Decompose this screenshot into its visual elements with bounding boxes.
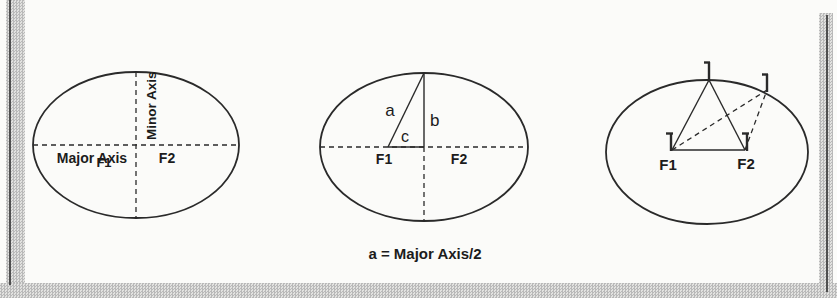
panel-ellipse-abc: a b c F1 F2	[320, 73, 528, 221]
side-c-label: c	[401, 128, 409, 145]
minor-axis-label: Minor Axis	[144, 71, 159, 140]
ellipse-diagrams: Minor Axis Major Axis F1 F2 a b c F1 F2	[0, 0, 837, 298]
focus2-label: F2	[737, 155, 755, 172]
ellipse-outline	[606, 80, 808, 224]
pencil-pin-apex	[704, 62, 710, 81]
focus2-label: F2	[451, 151, 468, 167]
side-a-label: a	[385, 101, 395, 120]
focus1-label: F1	[376, 151, 393, 167]
figure-caption: a = Major Axis/2	[368, 245, 481, 262]
string-left-line	[672, 80, 709, 150]
focus1-pin	[666, 133, 673, 151]
focus1-label: F1	[96, 155, 111, 170]
focus1-label: F1	[659, 156, 677, 173]
panel-ellipse-axes: Minor Axis Major Axis F1 F2	[33, 71, 239, 218]
string-alt-right-dashed-line	[745, 90, 767, 150]
scanned-figure-page: Minor Axis Major Axis F1 F2 a b c F1 F2	[0, 0, 837, 298]
panel-ellipse-pins: F1 F2	[606, 62, 808, 224]
side-b-label: b	[430, 111, 439, 130]
pencil-pin-upper-right	[762, 74, 768, 92]
focus2-label: F2	[159, 150, 176, 166]
major-axis-label: Major Axis	[57, 150, 127, 166]
